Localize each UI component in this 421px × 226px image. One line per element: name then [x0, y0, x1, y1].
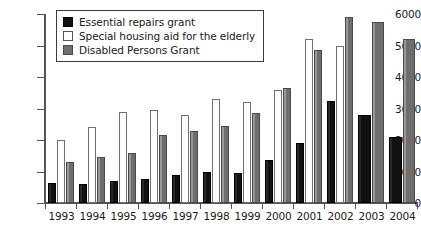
bar	[234, 173, 242, 203]
bar	[345, 17, 353, 203]
bar	[336, 46, 344, 204]
x-axis-tick	[324, 203, 325, 209]
x-axis-tick	[417, 203, 418, 209]
bar	[372, 22, 385, 203]
bar	[190, 131, 198, 203]
bar	[181, 115, 189, 203]
bar	[327, 101, 335, 203]
bar	[314, 50, 322, 203]
x-axis-tick-label: 1994	[77, 210, 108, 222]
bar	[305, 39, 313, 203]
x-axis-tick-label: 2003	[356, 210, 387, 222]
legend-item-label: Special housing aid for the elderly	[79, 30, 255, 42]
bar	[389, 137, 402, 203]
y-axis-tick	[37, 140, 44, 141]
bar	[296, 143, 304, 203]
bar	[141, 179, 149, 203]
bar	[150, 110, 158, 203]
y-axis-tick	[37, 14, 44, 15]
x-axis-tick-label: 1998	[201, 210, 232, 222]
legend-item-special-housing-aid-for-the-elderly: Special housing aid for the elderly	[63, 29, 255, 43]
bar	[110, 181, 118, 203]
x-axis-tick	[76, 203, 77, 209]
y-axis-tick	[37, 46, 44, 47]
bar	[57, 140, 65, 203]
bar	[172, 175, 180, 203]
y-axis-tick	[37, 203, 44, 204]
legend-swatch-icon	[63, 31, 73, 41]
bar	[48, 183, 56, 203]
x-axis-tick-label: 2001	[294, 210, 325, 222]
x-axis-tick	[169, 203, 170, 209]
legend-item-label: Disabled Persons Grant	[79, 44, 200, 56]
bar	[128, 153, 136, 203]
x-axis-tick-label: 1996	[139, 210, 170, 222]
bar	[66, 162, 74, 203]
x-axis-tick	[355, 203, 356, 209]
bar	[283, 88, 291, 203]
x-axis-tick	[138, 203, 139, 209]
x-axis-tick-label: 1997	[170, 210, 201, 222]
legend-swatch-icon	[63, 17, 73, 27]
x-axis-tick	[107, 203, 108, 209]
bar	[243, 102, 251, 203]
bar	[79, 184, 87, 203]
x-axis-tick-label: 2004	[387, 210, 418, 222]
legend-item-essential-repairs-grant: Essential repairs grant	[63, 15, 255, 29]
chart-legend: Essential repairs grant Special housing …	[56, 10, 264, 62]
x-axis-tick	[386, 203, 387, 209]
x-axis-tick	[200, 203, 201, 209]
x-axis-tick-label: 2000	[263, 210, 294, 222]
bar	[88, 127, 96, 203]
legend-item-label: Essential repairs grant	[79, 16, 195, 28]
x-axis-tick	[293, 203, 294, 209]
y-axis-tick	[37, 77, 44, 78]
x-axis-tick-label: 1995	[108, 210, 139, 222]
x-axis-tick	[231, 203, 232, 209]
bar	[403, 39, 416, 203]
bar	[274, 90, 282, 203]
bar	[252, 113, 260, 203]
bar	[119, 112, 127, 203]
y-axis-tick	[37, 172, 44, 173]
bar	[203, 172, 211, 204]
x-axis-tick-label: 1999	[232, 210, 263, 222]
bar	[265, 160, 273, 203]
bar	[97, 157, 105, 203]
bar	[221, 126, 229, 203]
x-axis-tick	[45, 203, 46, 209]
x-axis-tick-label: 1993	[46, 210, 77, 222]
x-axis-tick-label: 2002	[325, 210, 356, 222]
legend-item-disabled-persons-grant: Disabled Persons Grant	[63, 43, 255, 57]
bar	[212, 99, 220, 203]
y-axis-tick	[37, 109, 44, 110]
bar	[358, 115, 371, 203]
bar	[159, 135, 167, 203]
legend-swatch-icon	[63, 45, 73, 55]
x-axis-tick	[262, 203, 263, 209]
bar-chart: 0100020003000400050006000 19931994199519…	[0, 0, 421, 226]
